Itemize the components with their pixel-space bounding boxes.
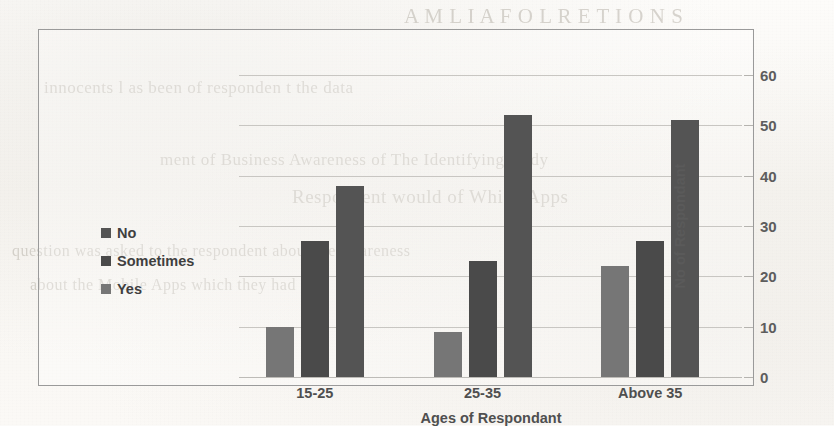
- legend-label-yes: Yes: [117, 281, 142, 297]
- y-axis-title: No of Respondant: [673, 164, 689, 289]
- legend-swatch-icon-sometimes: [101, 256, 111, 266]
- x-category-label-15-25: 15-25: [296, 385, 333, 401]
- chart-legend: NoSometimesYes: [101, 225, 194, 309]
- x-category-label-above-35: Above 35: [618, 385, 682, 401]
- y-tick-label-0: 0: [760, 369, 768, 386]
- y-tick-label-30: 30: [760, 218, 777, 235]
- y-tick-mark-30: [744, 226, 753, 227]
- y-tick-label-20: 20: [760, 268, 777, 285]
- y-tick-mark-60: [744, 75, 753, 76]
- bar-sometimes-25-35[interactable]: [469, 261, 497, 377]
- bar-no-15-25[interactable]: [336, 186, 364, 377]
- gridline-50: [239, 125, 742, 126]
- bar-no-25-35[interactable]: [504, 115, 532, 377]
- legend-item-no[interactable]: No: [101, 225, 194, 241]
- y-tick-label-50: 50: [760, 117, 777, 134]
- y-tick-mark-10: [744, 327, 753, 328]
- gridline-60: [239, 75, 742, 76]
- legend-item-yes[interactable]: Yes: [101, 281, 194, 297]
- y-tick-mark-0: [744, 377, 753, 378]
- y-tick-label-60: 60: [760, 67, 777, 84]
- bar-sometimes-15-25[interactable]: [301, 241, 329, 377]
- legend-swatch-icon-yes: [101, 284, 111, 294]
- y-tick-label-40: 40: [760, 167, 777, 184]
- y-tick-mark-50: [744, 125, 753, 126]
- x-category-label-25-35: 25-35: [464, 385, 501, 401]
- ghost-text-line-1: A M L I A F O L R E T I O N S: [404, 4, 683, 29]
- bar-sometimes-above-35[interactable]: [636, 241, 664, 377]
- y-tick-label-10: 10: [760, 318, 777, 335]
- gridline-0: [239, 377, 742, 378]
- legend-swatch-icon-no: [101, 228, 111, 238]
- legend-label-sometimes: Sometimes: [117, 253, 194, 269]
- chart-frame: NoSometimesYes No of Respondant Ages of …: [38, 29, 754, 386]
- bar-yes-above-35[interactable]: [601, 266, 629, 377]
- legend-item-sometimes[interactable]: Sometimes: [101, 253, 194, 269]
- y-tick-mark-20: [744, 276, 753, 277]
- gridline-30: [239, 226, 742, 227]
- legend-label-no: No: [117, 225, 136, 241]
- bar-yes-25-35[interactable]: [434, 332, 462, 377]
- x-axis-title: Ages of Respondant: [421, 410, 562, 426]
- plot-area: [239, 75, 742, 377]
- bar-yes-15-25[interactable]: [266, 327, 294, 377]
- y-tick-mark-40: [744, 176, 753, 177]
- gridline-40: [239, 176, 742, 177]
